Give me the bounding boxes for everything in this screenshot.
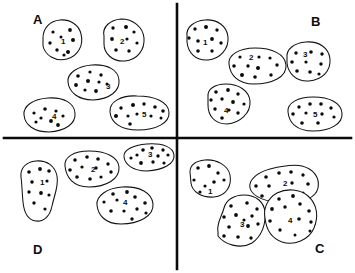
blob-dot bbox=[99, 73, 102, 76]
blob-dot bbox=[300, 121, 304, 125]
blob-dot bbox=[135, 112, 138, 115]
blob-dot bbox=[130, 217, 133, 220]
blob-d-4[interactable]: 4 bbox=[97, 187, 153, 224]
blob-dot bbox=[68, 168, 72, 172]
blob-dot bbox=[56, 123, 60, 127]
blob-dot bbox=[309, 220, 312, 223]
blob-dot bbox=[83, 88, 86, 91]
blob-dot bbox=[131, 103, 135, 107]
panel-label-c: C bbox=[315, 241, 325, 256]
blob-dot bbox=[111, 192, 115, 196]
blob-number-label: 1 bbox=[203, 38, 208, 47]
blob-dot bbox=[94, 89, 98, 93]
blob-dot bbox=[61, 114, 64, 117]
blob-dot bbox=[290, 181, 293, 184]
blob-dot bbox=[215, 28, 218, 31]
blob-dot bbox=[236, 235, 240, 239]
cluster-figure: 12345A12345B1234D1234C bbox=[0, 0, 355, 273]
blob-dot bbox=[161, 109, 165, 113]
blob-dot bbox=[132, 30, 135, 33]
blob-dot bbox=[125, 190, 129, 194]
blob-dot bbox=[246, 64, 249, 67]
blob-dot bbox=[30, 180, 34, 184]
blob-d-2[interactable]: 2 bbox=[65, 151, 119, 187]
blob-a-5[interactable]: 5 bbox=[110, 96, 169, 130]
blob-dot bbox=[114, 114, 118, 118]
blob-dot bbox=[122, 209, 125, 212]
blob-dot bbox=[68, 28, 72, 32]
blob-outline bbox=[24, 98, 75, 132]
blob-dot bbox=[135, 41, 138, 44]
blob-dot bbox=[109, 209, 113, 213]
blob-dot bbox=[71, 38, 75, 42]
blob-dot bbox=[39, 191, 43, 195]
blob-dot bbox=[156, 154, 159, 157]
blob-dot bbox=[332, 115, 335, 118]
blob-dot bbox=[51, 30, 54, 33]
blob-dot bbox=[227, 225, 231, 229]
blob-number-label: 2 bbox=[283, 179, 288, 188]
blob-dot bbox=[246, 224, 250, 228]
blob-b-1[interactable]: 1 bbox=[187, 20, 228, 60]
blob-number-label: 1 bbox=[61, 37, 66, 46]
blob-b-4[interactable]: 4 bbox=[208, 84, 250, 124]
blob-dot bbox=[88, 177, 92, 181]
blob-dot bbox=[255, 207, 258, 210]
blob-dot bbox=[85, 155, 89, 159]
blob-dot bbox=[99, 175, 102, 178]
blob-b-3[interactable]: 3 bbox=[287, 42, 330, 81]
blob-dot bbox=[196, 39, 200, 43]
blob-dot bbox=[162, 161, 165, 164]
blob-dot bbox=[277, 171, 281, 175]
blob-dot bbox=[291, 194, 295, 198]
blob-dot bbox=[297, 105, 300, 108]
panel-label-d: D bbox=[33, 242, 42, 257]
blob-d-1[interactable]: 1 bbox=[21, 161, 58, 221]
blob-dot bbox=[264, 175, 268, 179]
blob-number-label: 4 bbox=[123, 198, 128, 207]
blob-dot bbox=[232, 64, 236, 68]
blob-dot bbox=[245, 201, 249, 205]
blob-dot bbox=[75, 175, 79, 179]
blob-number-label: 5 bbox=[142, 110, 147, 119]
blob-a-3[interactable]: 3 bbox=[68, 65, 119, 100]
blob-c-4[interactable]: 4 bbox=[265, 190, 317, 243]
blob-number-label: 3 bbox=[148, 150, 153, 159]
blob-dot bbox=[204, 25, 208, 29]
blob-dot bbox=[129, 156, 132, 159]
blob-dot bbox=[166, 153, 169, 156]
panel-label-b: B bbox=[311, 14, 320, 29]
blob-c-3[interactable]: 3 bbox=[218, 195, 266, 246]
blob-b-2[interactable]: 2 bbox=[229, 48, 286, 84]
blob-dot bbox=[39, 116, 42, 119]
blob-number-label: 3 bbox=[303, 50, 308, 59]
blob-dot bbox=[216, 171, 219, 174]
blob-number-label: 4 bbox=[224, 106, 229, 115]
blob-dot bbox=[253, 75, 257, 79]
blob-d-3[interactable]: 3 bbox=[124, 144, 174, 171]
blob-dot bbox=[222, 215, 226, 219]
blob-a-2[interactable]: 2 bbox=[104, 19, 144, 61]
blob-b-5[interactable]: 5 bbox=[288, 97, 342, 131]
blob-dot bbox=[110, 37, 114, 41]
blob-dot bbox=[289, 170, 293, 174]
panel-b: 12345B bbox=[187, 14, 342, 131]
blob-dot bbox=[128, 122, 132, 126]
blob-dot bbox=[142, 102, 145, 105]
blob-a-4[interactable]: 4 bbox=[24, 98, 75, 132]
blob-number-label: 3 bbox=[106, 82, 111, 91]
blob-c-1[interactable]: 1 bbox=[190, 160, 230, 197]
blob-number-label: 4 bbox=[288, 216, 293, 225]
blob-dot bbox=[161, 148, 164, 151]
blob-dot bbox=[214, 90, 218, 94]
blob-dot bbox=[222, 178, 225, 181]
blob-dot bbox=[209, 98, 212, 101]
blob-dot bbox=[238, 55, 241, 58]
blob-dot bbox=[47, 169, 51, 173]
blob-dot bbox=[308, 70, 312, 74]
blob-dot bbox=[43, 207, 46, 210]
blob-a-1[interactable]: 1 bbox=[43, 20, 82, 60]
blob-dot bbox=[256, 222, 259, 225]
blob-dot bbox=[210, 37, 214, 41]
blob-dot bbox=[291, 112, 295, 116]
